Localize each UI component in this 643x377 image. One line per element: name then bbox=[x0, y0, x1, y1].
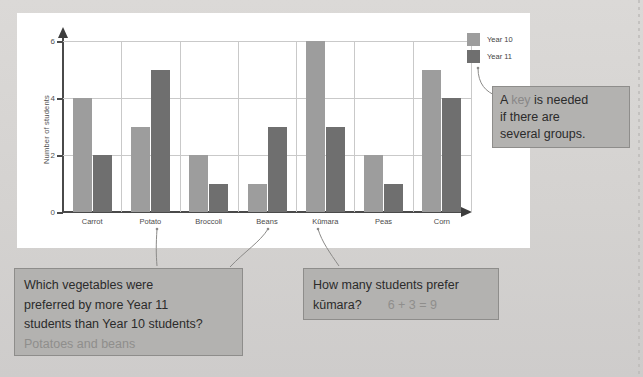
callout-right-answer: 6 + 3 = 9 bbox=[388, 295, 437, 315]
callout-key-note: A key is needed if there are several gro… bbox=[492, 86, 630, 148]
bar-kūmara-year-11 bbox=[326, 127, 345, 213]
x-label-kūmara: Kūmara bbox=[312, 217, 338, 226]
chart-panel: Number of students 0246 CarrotPotatoBroc… bbox=[17, 13, 530, 248]
callout-key-line1-b: is needed bbox=[531, 93, 589, 107]
legend-swatch-year-10 bbox=[467, 33, 480, 46]
gridline-vertical bbox=[296, 41, 297, 212]
gridline-horizontal bbox=[63, 98, 471, 99]
plot-area bbox=[63, 41, 471, 212]
callout-right-line1: How many students prefer bbox=[313, 275, 489, 295]
callout-left-answer: Potatoes and beans bbox=[24, 335, 233, 355]
legend-item-year-11: Year 11 bbox=[467, 48, 513, 65]
bar-broccoli-year-11 bbox=[209, 184, 228, 213]
x-label-potato: Potato bbox=[140, 217, 162, 226]
y-tick-label: 4 bbox=[25, 94, 55, 103]
gridline-vertical bbox=[121, 41, 122, 212]
x-label-peas: Peas bbox=[375, 217, 392, 226]
legend-label: Year 10 bbox=[487, 35, 513, 44]
x-label-broccoli: Broccoli bbox=[195, 217, 222, 226]
y-axis-arrow-icon bbox=[58, 27, 68, 38]
callout-key-highlight: key bbox=[511, 93, 530, 107]
bar-peas-year-10 bbox=[364, 155, 383, 212]
callout-question-kumara: How many students prefer kūmara? 6 + 3 =… bbox=[303, 268, 499, 320]
callout-key-line1-a: A bbox=[500, 93, 511, 107]
y-tick-label: 2 bbox=[25, 151, 55, 160]
legend-item-year-10: Year 10 bbox=[467, 31, 513, 48]
bar-corn-year-10 bbox=[422, 70, 441, 213]
y-tick-mark bbox=[57, 212, 63, 214]
callout-left-line2: preferred by more Year 11 bbox=[24, 296, 233, 316]
callout-right-question: kūmara? bbox=[313, 295, 362, 315]
gridline-vertical bbox=[471, 41, 472, 212]
bar-carrot-year-10 bbox=[73, 98, 92, 212]
chart-legend: Year 10Year 11 bbox=[467, 31, 513, 65]
legend-swatch-year-11 bbox=[467, 50, 480, 63]
x-label-beans: Beans bbox=[256, 217, 277, 226]
bar-peas-year-11 bbox=[384, 184, 403, 213]
bar-carrot-year-11 bbox=[93, 155, 112, 212]
bar-corn-year-11 bbox=[442, 98, 461, 212]
gridline-vertical bbox=[354, 41, 355, 212]
y-tick-label: 0 bbox=[25, 208, 55, 217]
bar-potato-year-11 bbox=[151, 70, 170, 213]
y-axis-title: Number of students bbox=[42, 70, 51, 190]
callout-key-line1: A key is needed bbox=[500, 92, 622, 109]
page-background: Number of students 0246 CarrotPotatoBroc… bbox=[0, 0, 643, 377]
callout-key-line3: several groups. bbox=[500, 126, 622, 143]
gridline-horizontal bbox=[63, 41, 471, 42]
page-edge-decoration bbox=[638, 0, 640, 377]
gridline-vertical bbox=[180, 41, 181, 212]
callout-right-line2: kūmara? 6 + 3 = 9 bbox=[313, 295, 489, 315]
x-label-carrot: Carrot bbox=[82, 217, 103, 226]
bar-broccoli-year-10 bbox=[189, 155, 208, 212]
x-label-corn: Corn bbox=[434, 217, 450, 226]
bar-potato-year-10 bbox=[131, 127, 150, 213]
bar-beans-year-11 bbox=[268, 127, 287, 213]
gridline-vertical bbox=[413, 41, 414, 212]
gridline-vertical bbox=[238, 41, 239, 212]
legend-label: Year 11 bbox=[487, 52, 512, 61]
y-tick-label: 6 bbox=[25, 37, 55, 46]
bar-beans-year-10 bbox=[248, 184, 267, 213]
callout-key-line2: if there are bbox=[500, 109, 622, 126]
callout-question-year11: Which vegetables were preferred by more … bbox=[14, 268, 243, 356]
callout-left-line3: students than Year 10 students? bbox=[24, 315, 233, 335]
bar-kūmara-year-10 bbox=[306, 41, 325, 212]
callout-left-line1: Which vegetables were bbox=[24, 276, 233, 296]
